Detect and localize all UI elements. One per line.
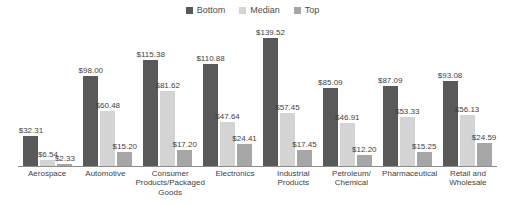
bar-column: $12.20: [357, 24, 372, 166]
bar-column: $24.59: [477, 24, 492, 166]
bar-column: $17.45: [297, 24, 312, 166]
bar-column: $32.31: [23, 24, 38, 166]
bar-column: $110.88: [203, 24, 218, 166]
bar-groups: $32.31$6.54$2.33$98.00$60.48$15.20$115.3…: [18, 24, 497, 166]
bar-value-label: $2.33: [55, 155, 75, 163]
bar-median[interactable]: [100, 111, 115, 166]
legend-item-top[interactable]: Top: [294, 6, 320, 15]
legend-item-bottom[interactable]: Bottom: [186, 6, 226, 15]
legend-swatch-bottom: [186, 7, 193, 14]
bar-group: $115.38$81.62$17.20: [138, 24, 198, 166]
bar-top[interactable]: [117, 152, 132, 166]
legend-item-median[interactable]: Median: [239, 6, 280, 15]
bar-column: $17.20: [177, 24, 192, 166]
bar-group: $32.31$6.54$2.33: [18, 24, 78, 166]
bar-column: $2.33: [57, 24, 72, 166]
bar-column: $98.00: [83, 24, 98, 166]
bar-group: $93.08$56.13$24.59: [437, 24, 497, 166]
bar-group: $98.00$60.48$15.20: [78, 24, 138, 166]
chart-legend: BottomMedianTop: [0, 6, 505, 15]
bar-column: $15.20: [117, 24, 132, 166]
bar-column: $24.41: [237, 24, 252, 166]
bar-value-label: $17.20: [172, 141, 196, 149]
bar-top[interactable]: [237, 144, 252, 166]
category-label: Consumer Products/Packaged Goods: [134, 169, 205, 197]
bar-median[interactable]: [220, 122, 235, 166]
category-label: Industrial Products: [264, 169, 322, 197]
category-label: Aerospace: [18, 169, 76, 197]
legend-label: Top: [305, 6, 320, 15]
legend-swatch-median: [239, 7, 246, 14]
bar-top[interactable]: [477, 143, 492, 166]
bar-value-label: $24.59: [472, 134, 496, 142]
bar-column: $56.13: [460, 24, 475, 166]
bar-bottom[interactable]: [23, 136, 38, 166]
bar-bottom[interactable]: [263, 38, 278, 166]
plot-area: $32.31$6.54$2.33$98.00$60.48$15.20$115.3…: [0, 24, 505, 167]
category-label: Electronics: [206, 169, 264, 197]
bar-median[interactable]: [160, 91, 175, 166]
bar-top[interactable]: [177, 150, 192, 166]
bar-group: $85.09$46.91$12.20: [317, 24, 377, 166]
x-axis-baseline: [18, 166, 497, 167]
bar-bottom[interactable]: [323, 88, 338, 166]
bar-column: $47.64: [220, 24, 235, 166]
bar-top[interactable]: [357, 155, 372, 166]
bar-column: $85.09: [323, 24, 338, 166]
bar-group: $139.52$57.45$17.45: [258, 24, 318, 166]
bar-top[interactable]: [297, 150, 312, 166]
grouped-bar-chart: BottomMedianTop $32.31$6.54$2.33$98.00$6…: [0, 0, 505, 205]
category-label: Retail and Wholesale: [439, 169, 497, 197]
bar-column: $6.54: [40, 24, 55, 166]
bar-value-label: $12.20: [352, 146, 376, 154]
category-axis-labels: AerospaceAutomotiveConsumer Products/Pac…: [18, 169, 497, 197]
bar-bottom[interactable]: [83, 76, 98, 166]
bar-bottom[interactable]: [383, 86, 398, 166]
category-label: Petroleum/ Chemical: [322, 169, 380, 197]
bar-column: $15.25: [417, 24, 432, 166]
bar-value-label: $15.25: [412, 143, 436, 151]
category-label: Pharmaceutical: [381, 169, 439, 197]
bar-column: $139.52: [263, 24, 278, 166]
bar-column: $87.09: [383, 24, 398, 166]
category-label: Automotive: [76, 169, 134, 197]
bar-value-label: $24.41: [232, 135, 256, 143]
legend-label: Bottom: [197, 6, 226, 15]
bar-group: $110.88$47.64$24.41: [198, 24, 258, 166]
bar-bottom[interactable]: [443, 81, 458, 166]
bar-group: $87.09$53.33$15.25: [377, 24, 437, 166]
bar-value-label: $17.45: [292, 141, 316, 149]
bar-column: $93.08: [443, 24, 458, 166]
legend-label: Median: [250, 6, 280, 15]
bar-value-label: $15.20: [113, 143, 137, 151]
bar-bottom[interactable]: [143, 60, 158, 166]
legend-swatch-top: [294, 7, 301, 14]
bar-column: $115.38: [143, 24, 158, 166]
bar-top[interactable]: [417, 152, 432, 166]
